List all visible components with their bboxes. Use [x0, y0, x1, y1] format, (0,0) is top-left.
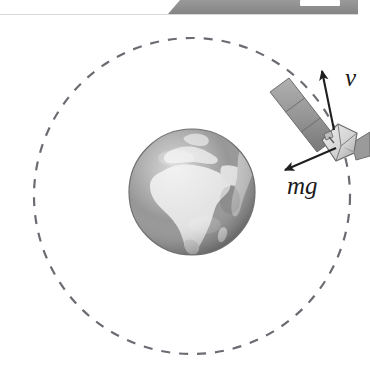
weight-arrow [285, 148, 336, 170]
earth-sphere-shading [129, 129, 255, 255]
figure-canvas: v mg [0, 0, 370, 380]
vector-weight: mg [285, 148, 336, 199]
velocity-arrow [322, 71, 334, 130]
banner-notch [300, 0, 340, 6]
cropped-graphic-strip [0, 0, 358, 15]
earth-globe [129, 129, 255, 255]
velocity-label: v [345, 64, 357, 91]
weight-label: mg [287, 172, 318, 199]
vector-velocity: v [322, 64, 357, 130]
physics-figure-satellite-orbit: v mg [0, 0, 370, 380]
